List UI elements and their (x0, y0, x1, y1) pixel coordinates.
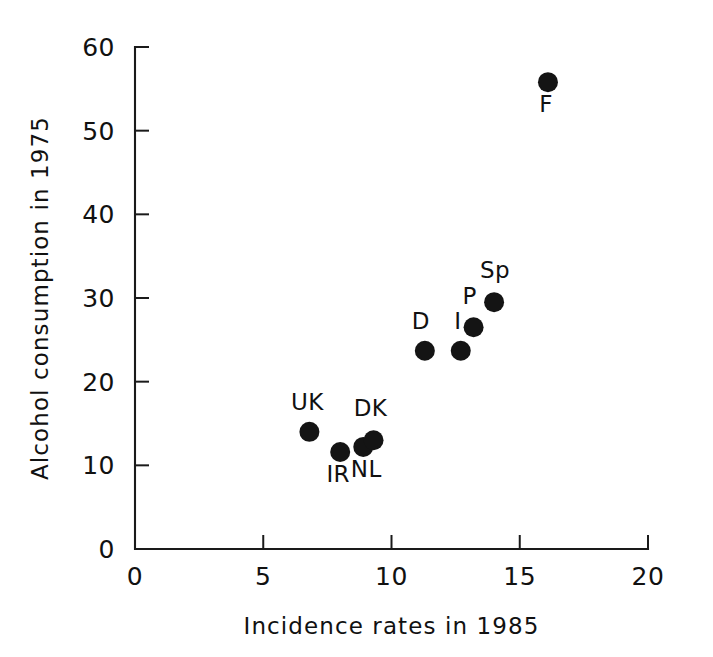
data-point-label-UK: UK (291, 389, 324, 415)
data-point-label-Sp: Sp (480, 257, 510, 283)
data-point-label-DK: DK (354, 395, 388, 421)
data-point-P[interactable] (464, 317, 484, 337)
axis-spines (135, 47, 648, 549)
y-tick-label-50: 50 (82, 117, 115, 146)
y-tick-label-10: 10 (82, 451, 115, 480)
x-axis-title: Incidence rates in 1985 (244, 613, 540, 639)
y-axis-title: Alcohol consumption in 1975 (27, 116, 53, 480)
scatter-chart-figure: 010203040506005101520UKIRNLDKDIPSpFIncid… (0, 0, 713, 657)
data-point-I[interactable] (451, 341, 471, 361)
data-point-F[interactable] (538, 72, 558, 92)
y-tick-label-30: 30 (82, 284, 115, 313)
data-point-label-F: F (539, 91, 553, 117)
data-point-label-IR: IR (326, 461, 350, 487)
scatter-plot-canvas: 010203040506005101520UKIRNLDKDIPSpFIncid… (0, 0, 713, 657)
data-point-label-NL: NL (351, 456, 382, 482)
data-point-D[interactable] (415, 341, 435, 361)
x-tick-label-20: 20 (632, 562, 665, 591)
data-point-label-D: D (412, 308, 430, 334)
x-tick-label-0: 0 (127, 562, 143, 591)
y-tick-label-0: 0 (99, 535, 115, 564)
y-tick-label-60: 60 (82, 33, 115, 62)
x-tick-label-15: 15 (503, 562, 536, 591)
data-point-label-P: P (462, 283, 476, 309)
data-point-label-I: I (454, 308, 461, 334)
data-point-Sp[interactable] (484, 292, 504, 312)
x-tick-label-5: 5 (255, 562, 271, 591)
data-point-DK[interactable] (364, 430, 384, 450)
data-point-UK[interactable] (299, 422, 319, 442)
y-tick-label-40: 40 (82, 200, 115, 229)
x-tick-label-10: 10 (375, 562, 408, 591)
y-tick-label-20: 20 (82, 368, 115, 397)
data-point-IR[interactable] (330, 442, 350, 462)
